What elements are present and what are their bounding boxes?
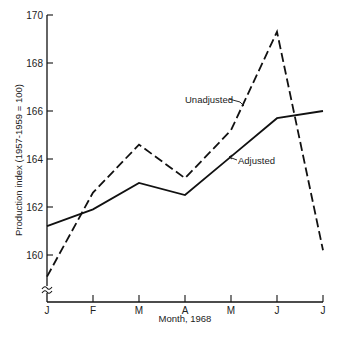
axis-break-icon: [42, 287, 52, 294]
adjusted-line: [47, 111, 323, 226]
x-tick-label: J: [321, 305, 326, 316]
y-axis-ticks: 160162164166168170: [26, 10, 53, 261]
x-tick-label: M: [135, 305, 143, 316]
y-axis-title: Production index (1957-1959 = 100): [13, 84, 24, 236]
series-lines: [47, 32, 323, 277]
unadjusted-label: Unadjusted: [185, 94, 233, 105]
y-tick-label: 162: [26, 202, 43, 213]
y-tick-label: 164: [26, 154, 43, 165]
y-tick-label: 168: [26, 58, 43, 69]
x-tick-label: J: [275, 305, 280, 316]
x-axis-title: Month, 1968: [159, 313, 212, 324]
y-tick-label: 170: [26, 10, 43, 21]
x-tick-label: F: [90, 305, 96, 316]
x-tick-label: J: [45, 305, 50, 316]
x-tick-label: M: [227, 305, 235, 316]
y-tick-label: 166: [26, 106, 43, 117]
y-tick-label: 160: [26, 250, 43, 261]
line-chart: 160162164166168170 JFMAMJJ Unadjusted Ad…: [0, 0, 337, 339]
adjusted-label: Adjusted: [238, 155, 275, 166]
unadjusted-line: [47, 32, 323, 277]
